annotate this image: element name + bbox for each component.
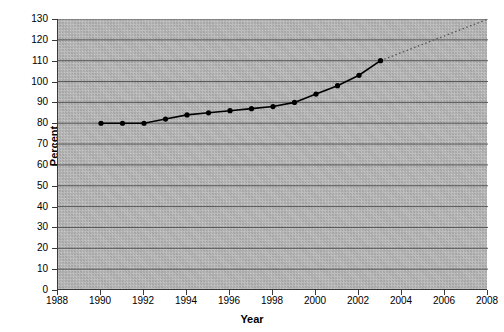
plot-area: [57, 19, 487, 290]
y-axis-tick-label: 30: [14, 222, 48, 232]
x-axis-tick-mark: [444, 290, 445, 295]
y-axis-tick-label: 40: [14, 202, 48, 212]
data-point-marker: [141, 121, 146, 126]
x-axis-tick-mark: [57, 290, 58, 295]
data-point-markers: [98, 58, 383, 126]
y-axis-tick-label: 50: [14, 181, 48, 191]
x-axis-tick-mark: [315, 290, 316, 295]
x-axis-tick-label: 1996: [205, 295, 253, 306]
y-axis-tick-label: 100: [14, 77, 48, 87]
x-axis-tick-mark: [272, 290, 273, 295]
x-axis-tick-mark: [100, 290, 101, 295]
data-point-marker: [163, 116, 168, 121]
data-point-marker: [356, 73, 361, 78]
data-point-marker: [227, 108, 232, 113]
x-axis-tick-label: 2008: [463, 295, 504, 306]
data-point-marker: [206, 110, 211, 115]
x-axis-tick-label: 1992: [119, 295, 167, 306]
y-axis-tick-label: 60: [14, 160, 48, 170]
gridlines: [58, 19, 488, 269]
data-point-marker: [98, 121, 103, 126]
x-axis-tick-label: 1990: [76, 295, 124, 306]
data-point-marker: [270, 104, 275, 109]
plot-svg: [58, 19, 488, 290]
y-axis-tick-label: 130: [14, 14, 48, 24]
y-axis-tick-label: 80: [14, 118, 48, 128]
y-axis-tick-label: 20: [14, 243, 48, 253]
x-axis-tick-mark: [487, 290, 488, 295]
data-point-marker: [120, 121, 125, 126]
y-axis-tick-label: 10: [14, 264, 48, 274]
chart-container: Percent 0102030405060708090100110120130 …: [0, 0, 504, 332]
data-point-marker: [184, 112, 189, 117]
x-axis-tick-label: 2000: [291, 295, 339, 306]
x-axis-tick-mark: [186, 290, 187, 295]
data-line-series-0: [101, 61, 381, 124]
x-axis-tick-label: 1994: [162, 295, 210, 306]
x-axis-tick-label: 2004: [377, 295, 425, 306]
x-axis-tick-mark: [358, 290, 359, 295]
x-axis-tick-label: 1988: [33, 295, 81, 306]
x-axis-tick-mark: [401, 290, 402, 295]
y-axis-tick-label: 110: [14, 56, 48, 66]
data-point-marker: [313, 91, 318, 96]
x-axis-tick-label: 1998: [248, 295, 296, 306]
data-point-marker: [335, 83, 340, 88]
x-axis-tick-mark: [229, 290, 230, 295]
x-axis-title: Year: [0, 313, 504, 325]
data-point-marker: [249, 106, 254, 111]
y-axis-tick-label: 70: [14, 139, 48, 149]
y-axis-tick-label: 120: [14, 35, 48, 45]
data-point-marker: [292, 100, 297, 105]
x-axis-tick-mark: [143, 290, 144, 295]
x-axis-tick-label: 2006: [420, 295, 468, 306]
x-axis-tick-label: 2002: [334, 295, 382, 306]
y-axis-tick-label: 90: [14, 97, 48, 107]
data-point-marker: [378, 58, 383, 63]
y-axis-tick-label: 0: [14, 285, 48, 295]
